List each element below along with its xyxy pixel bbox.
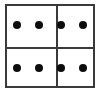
dot-top-left-1	[13, 21, 21, 29]
dot-top-right-1	[57, 21, 65, 29]
figure-root	[0, 0, 100, 93]
dot-bottom-right-1	[57, 64, 65, 72]
dot-top-right-2	[79, 21, 87, 29]
grid-frame	[5, 4, 95, 88]
dot-top-left-2	[35, 21, 43, 29]
dot-bottom-right-2	[79, 64, 87, 72]
dot-bottom-left-1	[13, 64, 21, 72]
dot-bottom-left-2	[35, 64, 43, 72]
